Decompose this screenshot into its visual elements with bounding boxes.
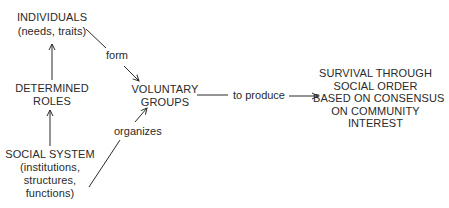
individuals-subtitle: (needs, traits) xyxy=(2,25,102,38)
arrow-form-to-groups xyxy=(124,66,139,81)
node-voluntary-groups: VOLUNTARY GROUPS xyxy=(125,83,205,109)
edge-label-organizes: organizes xyxy=(114,125,162,138)
voluntary-groups-line1: VOLUNTARY xyxy=(125,83,205,96)
outcome-line4: ON COMMUNITY xyxy=(313,105,438,118)
social-system-title: SOCIAL SYSTEM xyxy=(0,148,100,161)
voluntary-groups-line2: GROUPS xyxy=(125,96,205,109)
diagram-canvas: INDIVIDUALS (needs, traits) DETERMINED R… xyxy=(0,0,449,208)
outcome-line3: BASED ON CONSENSUS xyxy=(313,92,438,105)
determined-roles-line1: DETERMINED xyxy=(2,82,102,95)
social-system-line2: (institutions, xyxy=(0,161,100,174)
individuals-title: INDIVIDUALS xyxy=(2,11,102,24)
edge-label-form: form xyxy=(106,49,128,62)
social-system-line4: functions) xyxy=(0,187,100,200)
social-system-line3: structures, xyxy=(0,174,100,187)
node-outcome: SURVIVAL THROUGH SOCIAL ORDER BASED ON C… xyxy=(313,67,438,130)
node-individuals: INDIVIDUALS (needs, traits) xyxy=(2,11,102,38)
outcome-line2: SOCIAL ORDER xyxy=(313,80,438,93)
node-social-system: SOCIAL SYSTEM (institutions, structures,… xyxy=(0,148,100,200)
outcome-line5: INTEREST xyxy=(313,117,438,130)
node-determined-roles: DETERMINED ROLES xyxy=(2,82,102,108)
arrow-organizes-head xyxy=(135,108,147,122)
outcome-line1: SURVIVAL THROUGH xyxy=(313,67,438,80)
edge-label-to-produce: to produce xyxy=(233,89,285,102)
determined-roles-line2: ROLES xyxy=(2,95,102,108)
